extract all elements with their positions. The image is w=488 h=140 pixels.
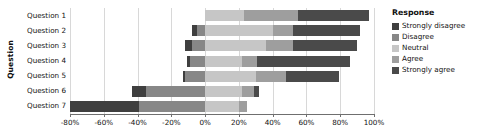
legend-swatch-icon xyxy=(392,34,399,41)
legend-item-label: Disagree xyxy=(402,32,434,42)
bar-segment xyxy=(139,101,205,112)
x-axis-tick-label: -80% xyxy=(61,118,80,127)
bar-row xyxy=(70,86,374,97)
x-axis-tick-label: 40% xyxy=(265,118,281,127)
bar-segment xyxy=(185,71,205,82)
legend-swatch-icon xyxy=(392,56,399,63)
x-axis-tick-label: 100% xyxy=(364,118,385,127)
bar-segment xyxy=(205,10,244,21)
y-axis-tick-label: Question 7 xyxy=(27,99,66,113)
y-axis-tick-label: Question 6 xyxy=(27,84,66,98)
y-axis-tick-labels: Question 1Question 2Question 3Question 4… xyxy=(18,8,68,114)
x-axis-tick-mark xyxy=(306,114,307,117)
y-axis-tick-label: Question 2 xyxy=(27,24,66,38)
y-axis-tick-label: Question 4 xyxy=(27,54,66,68)
plot-area xyxy=(70,8,374,114)
legend-swatch-icon xyxy=(392,23,399,30)
legend-items: Strongly disagreeDisagreeNeutralAgreeStr… xyxy=(392,21,486,75)
bar-segment xyxy=(257,56,350,67)
legend-item[interactable]: Neutral xyxy=(392,43,486,53)
bar-row xyxy=(70,71,374,82)
bar-segment xyxy=(205,71,256,82)
bar-segment xyxy=(205,56,242,67)
y-axis-tick-label: Question 5 xyxy=(27,69,66,83)
x-axis-tick-mark xyxy=(239,114,240,117)
bar-segment xyxy=(242,56,257,67)
x-axis-tick-label: -40% xyxy=(128,118,147,127)
bar-segment xyxy=(256,71,286,82)
x-axis-tick-label: 60% xyxy=(298,118,314,127)
legend-title: Response xyxy=(392,8,486,18)
x-axis-tick-mark xyxy=(374,114,375,117)
x-axis-tick-mark xyxy=(104,114,105,117)
x-axis-tick-mark xyxy=(273,114,274,117)
y-axis-title: Question xyxy=(2,0,18,118)
legend-item-label: Strongly disagree xyxy=(402,21,465,31)
y-axis-tick-label: Question 3 xyxy=(27,39,66,53)
bar-segment xyxy=(254,86,259,97)
bar-segment xyxy=(190,56,205,67)
y-axis-title-text: Question xyxy=(6,40,15,79)
x-axis-tick-label: 20% xyxy=(231,118,247,127)
legend: Response Strongly disagreeDisagreeNeutra… xyxy=(392,8,486,76)
bar-segment xyxy=(70,101,139,112)
legend-item[interactable]: Disagree xyxy=(392,32,486,42)
bar-segment xyxy=(293,40,357,51)
legend-swatch-icon xyxy=(392,67,399,74)
x-axis-tick-label: 0% xyxy=(199,118,210,127)
bar-segment xyxy=(205,40,266,51)
x-axis-tick-mark xyxy=(171,114,172,117)
legend-item-label: Agree xyxy=(402,54,423,64)
legend-item[interactable]: Agree xyxy=(392,54,486,64)
x-axis-tick-mark xyxy=(138,114,139,117)
bar-row xyxy=(70,10,374,21)
legend-item[interactable]: Strongly agree xyxy=(392,65,486,75)
bar-segment xyxy=(266,40,293,51)
bar-segment xyxy=(197,25,205,36)
bar-segment xyxy=(205,101,239,112)
bar-segment xyxy=(273,25,293,36)
bar-segment xyxy=(185,40,192,51)
x-axis-tick-label: -20% xyxy=(162,118,181,127)
legend-item[interactable]: Strongly disagree xyxy=(392,21,486,31)
x-axis-tick-label: -60% xyxy=(94,118,113,127)
legend-swatch-icon xyxy=(392,45,399,52)
x-axis-tick-mark xyxy=(205,114,206,117)
bar-row xyxy=(70,101,374,112)
bar-row xyxy=(70,56,374,67)
bar-segment xyxy=(192,40,206,51)
bar-segment xyxy=(146,86,205,97)
legend-item-label: Strongly agree xyxy=(402,65,455,75)
bar-segment xyxy=(298,10,369,21)
bar-row xyxy=(70,40,374,51)
bar-segment xyxy=(239,101,247,112)
bar-segment xyxy=(293,25,361,36)
y-axis-tick-label: Question 1 xyxy=(27,9,66,23)
bar-segment xyxy=(242,86,254,97)
bar-segment xyxy=(205,86,242,97)
gridline xyxy=(374,8,375,114)
bar-segment xyxy=(205,25,273,36)
x-axis-line xyxy=(70,114,374,115)
bar-segment xyxy=(244,10,298,21)
bar-segment xyxy=(286,71,338,82)
x-axis-tick-mark xyxy=(70,114,71,117)
legend-item-label: Neutral xyxy=(402,43,429,53)
x-axis-tick-label: 80% xyxy=(332,118,348,127)
x-axis-tick-mark xyxy=(340,114,341,117)
likert-diverging-bar-chart: Question Question 1Question 2Question 3Q… xyxy=(0,0,488,140)
bar-row xyxy=(70,25,374,36)
bar-segment xyxy=(132,86,146,97)
